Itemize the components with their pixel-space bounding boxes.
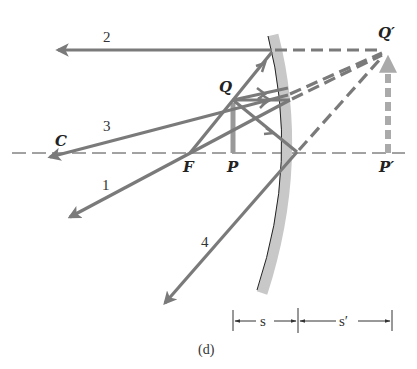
figure-caption: (d): [198, 342, 215, 358]
label-s: s: [260, 313, 266, 329]
diagram-canvas: C F P Q P′ Q′ 2 3 1 4 s s′ (d): [0, 0, 417, 369]
label-ray-2: 2: [103, 29, 111, 45]
convex-mirror-ray-diagram: C F P Q P′ Q′ 2 3 1 4 s s′ (d): [0, 0, 417, 369]
label-Q-prime: Q′: [378, 24, 395, 42]
label-C: C: [55, 132, 67, 150]
label-ray-4: 4: [201, 234, 209, 250]
label-F: F: [182, 158, 195, 176]
label-s-prime: s′: [339, 313, 348, 329]
label-ray-3: 3: [103, 118, 111, 134]
dimension-lines: [233, 308, 392, 333]
label-P: P: [226, 158, 239, 176]
label-Q: Q: [219, 78, 232, 96]
ray-3: [50, 53, 382, 157]
label-ray-1: 1: [102, 177, 110, 193]
label-P-prime: P′: [378, 158, 394, 176]
mirror-band: [262, 35, 287, 293]
